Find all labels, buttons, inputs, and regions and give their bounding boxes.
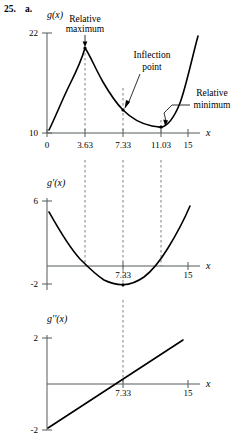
inflection-point-label-line1: Inflection [134,50,171,60]
g-ytick-label-10: 10 [29,128,39,138]
gprime-y-axis-label: g'(x) [47,177,66,189]
g-xtick-label-0: 0 [45,140,50,150]
g-xtick-label-1103: 11.03 [151,140,171,150]
gprime-ytick-label-6: 6 [34,196,39,206]
figure-page: 25. a. [0,0,236,447]
g-relmin-point [159,126,162,129]
relative-maximum-label-line1: Relative [69,14,101,24]
panel-g: g(x) x 22 10 0 3.63 7.33 11.03 15 Relati… [29,9,231,150]
gprime-xtick-label-733: 7.33 [115,270,131,280]
relative-maximum-arrow-head-icon [83,42,88,48]
panel-g-prime: g'(x) x 6 -2 7.33 15 [31,160,212,290]
relative-minimum-leader-bend [164,105,172,121]
g-y-axis-label: g(x) [47,9,64,21]
gprime-ytick-label-neg2: -2 [31,279,39,289]
gdprime-xtick-label-733: 7.33 [115,388,131,398]
relative-minimum-label-line2: minimum [194,100,232,110]
g-xtick-label-15: 15 [184,140,194,150]
inflection-point-leader-line [128,74,140,104]
gdprime-y-axis-label: g''(x) [47,313,68,325]
gdprime-ytick-label-neg2: -2 [31,425,39,435]
g-curve [49,36,198,130]
g-xtick-label-733: 7.33 [115,140,131,150]
gdprime-xtick-label-15: 15 [184,388,194,398]
gdprime-x-axis-label: x [205,378,211,389]
relative-minimum-arrow-head-icon [163,119,168,126]
gprime-vertex-point [121,283,124,286]
relative-minimum-label-line1: Relative [196,88,228,98]
relative-maximum-label-line2: maximum [66,24,105,34]
panel-g-double-prime: g''(x) x 2 -2 7.33 15 [31,300,212,435]
g-ytick-label-22: 22 [29,28,38,38]
inflection-point-label-line2: point [142,62,162,72]
g-inflection-point [121,108,124,111]
gprime-xtick-label-15: 15 [184,270,194,280]
g-xtick-label-363: 3.63 [77,140,93,150]
three-panel-derivative-figure: g(x) x 22 10 0 3.63 7.33 11.03 15 Relati… [0,0,236,447]
g-x-axis-label: x [205,127,211,138]
gdprime-ytick-label-2: 2 [34,333,39,343]
gprime-x-axis-label: x [205,260,211,271]
